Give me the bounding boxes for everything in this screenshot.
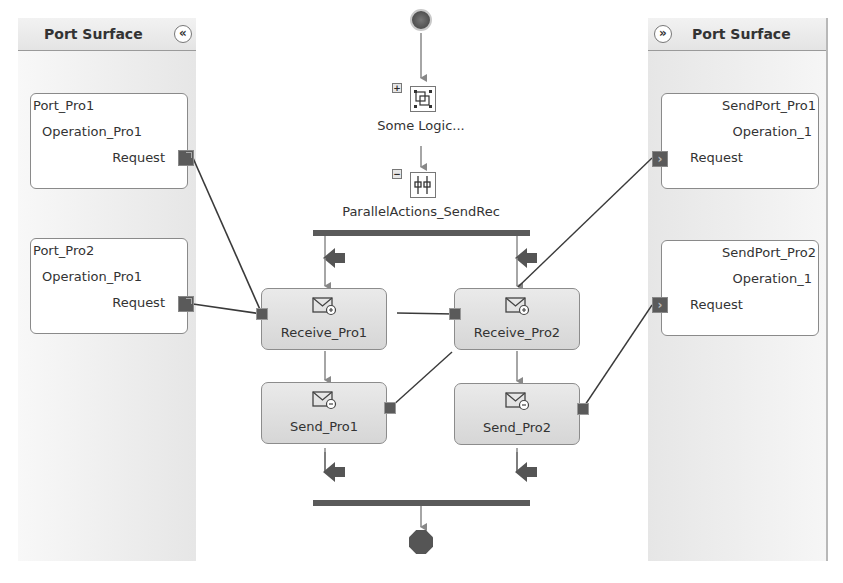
operation-name: Operation_Pro1 xyxy=(42,124,142,139)
collapse-icon[interactable]: − xyxy=(392,169,402,179)
binding-port-pro2-receive1 xyxy=(193,304,262,314)
scope-shape-icon[interactable] xyxy=(410,86,436,112)
shape-label: Send_Pro2 xyxy=(455,420,579,435)
port-name: SendPort_Pro1 xyxy=(722,98,816,113)
send-message-icon xyxy=(311,389,337,411)
receive-shape-receive-pro2[interactable]: Receive_Pro2 xyxy=(454,288,580,350)
port-port-pro2[interactable]: Port_Pro2 Operation_Pro1 Request xyxy=(30,238,188,334)
end-node-icon[interactable] xyxy=(409,530,433,554)
operation-name: Operation_1 xyxy=(733,124,812,139)
binding-receive2-sendport-pro1 xyxy=(518,158,652,287)
binding-port-pro1-receive1 xyxy=(193,158,262,314)
shape-port-handle-icon[interactable] xyxy=(384,402,396,414)
send-port-handle-icon[interactable]: › xyxy=(652,151,668,167)
receive-port-handle-icon[interactable] xyxy=(178,296,194,312)
receive-shape-receive-pro1[interactable]: Receive_Pro1 xyxy=(261,288,387,350)
port-name: Port_Pro2 xyxy=(33,243,94,258)
message-name: Request xyxy=(112,295,165,310)
shape-label: Receive_Pro1 xyxy=(262,325,386,340)
collapse-left-icon[interactable]: « xyxy=(174,25,192,43)
send-message-icon xyxy=(504,390,530,412)
message-name: Request xyxy=(690,297,743,312)
fork-bar xyxy=(313,230,530,236)
send-port-handle-icon[interactable]: › xyxy=(652,297,668,313)
port-sendport-pro1[interactable]: SendPort_Pro1 Operation_1 Request xyxy=(661,93,819,189)
receive-message-icon xyxy=(504,295,530,317)
shape-label: Receive_Pro2 xyxy=(455,325,579,340)
binding-receive1-receive2 xyxy=(397,313,454,314)
expand-icon[interactable]: + xyxy=(392,83,402,93)
left-port-surface-header: Port Surface « xyxy=(18,18,196,51)
send-shape-send-pro1[interactable]: Send_Pro1 xyxy=(261,382,387,444)
scope-label: Some Logic... xyxy=(361,118,481,133)
port-sendport-pro2[interactable]: SendPort_Pro2 Operation_1 Request xyxy=(661,240,819,336)
right-port-surface-header: » Port Surface xyxy=(648,18,826,51)
send-shape-send-pro2[interactable]: Send_Pro2 xyxy=(454,383,580,445)
join-bar xyxy=(313,500,530,506)
port-port-pro1[interactable]: Port_Pro1 Operation_Pro1 Request xyxy=(30,93,188,189)
receive-message-icon xyxy=(311,295,337,317)
shape-port-handle-icon[interactable] xyxy=(449,308,461,320)
left-panel-title: Port Surface xyxy=(44,26,143,42)
shape-port-handle-icon[interactable] xyxy=(577,403,589,415)
right-panel-title: Port Surface xyxy=(692,26,791,42)
parallel-actions-icon[interactable] xyxy=(410,172,436,198)
binding-send1-link xyxy=(391,352,452,407)
operation-name: Operation_1 xyxy=(733,271,812,286)
start-node-icon[interactable] xyxy=(410,9,432,31)
port-name: Port_Pro1 xyxy=(33,98,94,113)
collapse-right-icon[interactable]: » xyxy=(654,25,672,43)
shape-port-handle-icon[interactable] xyxy=(256,308,268,320)
shape-label: Send_Pro1 xyxy=(262,419,386,434)
receive-port-handle-icon[interactable] xyxy=(178,150,194,166)
message-name: Request xyxy=(112,150,165,165)
message-name: Request xyxy=(690,150,743,165)
binding-send2-sendport-pro2 xyxy=(583,305,652,408)
operation-name: Operation_Pro1 xyxy=(42,269,142,284)
port-name: SendPort_Pro2 xyxy=(722,245,816,260)
parallel-actions-label: ParallelActions_SendRec xyxy=(321,204,521,219)
